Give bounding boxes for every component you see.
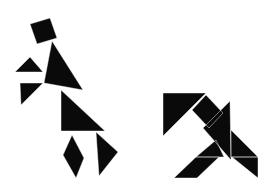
parallelogram-leg-piece [63, 135, 84, 178]
bird-figure [163, 93, 258, 178]
square-head-piece [30, 18, 57, 44]
tangram-illustration [0, 0, 274, 189]
small-triangle-arm-upper-piece [15, 57, 43, 72]
parallelogram-leg-piece [174, 157, 219, 178]
large-triangle-torso-piece [44, 41, 83, 90]
dancing-person-figure [15, 18, 118, 178]
medium-triangle-leg-piece [96, 132, 118, 176]
tangram-canvas [0, 0, 274, 189]
